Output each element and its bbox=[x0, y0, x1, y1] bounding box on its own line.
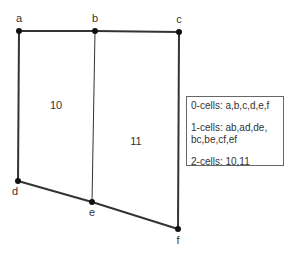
vertices-group bbox=[15, 28, 182, 232]
one-cells-line2: bc,be,cf,ef bbox=[191, 134, 237, 145]
edge-be bbox=[92, 31, 95, 202]
edge-bc bbox=[95, 31, 179, 32]
vertex-label-a: a bbox=[16, 12, 23, 24]
edge-de bbox=[18, 181, 92, 202]
one-cells-line1: 1-cells: ab,ad,de, bbox=[191, 122, 267, 133]
vertex-label-c: c bbox=[176, 13, 182, 25]
edge-ef bbox=[92, 202, 178, 229]
vertex-label-f: f bbox=[176, 234, 180, 246]
vertex-label-e: e bbox=[89, 206, 95, 218]
vertex-c bbox=[176, 29, 182, 35]
two-cells-text: 2-cells: 10,11 bbox=[191, 156, 279, 168]
zero-cells-text: 0-cells: a,b,c,d,e,f bbox=[191, 100, 279, 112]
vertex-f bbox=[175, 226, 181, 232]
cells-legend-box: 0-cells: a,b,c,d,e,f 1-cells: ab,ad,de, … bbox=[186, 96, 284, 166]
edges-group bbox=[18, 31, 179, 229]
face-label-10: 10 bbox=[50, 99, 62, 111]
edge-ad bbox=[18, 31, 19, 181]
one-cells-text: 1-cells: ab,ad,de, bc,be,cf,ef bbox=[191, 122, 279, 146]
vertex-labels-group: abcdef bbox=[12, 12, 182, 246]
vertex-b bbox=[92, 28, 98, 34]
vertex-e bbox=[89, 199, 95, 205]
face-label-11: 11 bbox=[130, 135, 141, 147]
vertex-label-d: d bbox=[12, 185, 18, 197]
edge-cf bbox=[178, 32, 179, 229]
vertex-label-b: b bbox=[92, 12, 98, 24]
vertex-a bbox=[16, 28, 22, 34]
vertex-d bbox=[15, 178, 21, 184]
face-labels-group: 1011 bbox=[50, 99, 142, 147]
